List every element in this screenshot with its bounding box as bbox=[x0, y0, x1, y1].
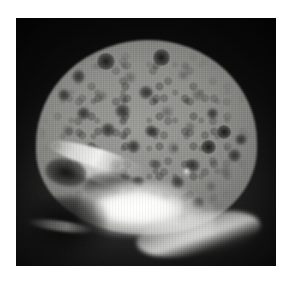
skull-radiograph-image bbox=[16, 18, 276, 266]
page-margin-left bbox=[0, 0, 16, 284]
figure-caption bbox=[16, 268, 276, 282]
scan-line-noise bbox=[16, 18, 276, 266]
page-margin-right bbox=[276, 0, 290, 284]
page-margin-top bbox=[0, 0, 290, 18]
figure-root bbox=[0, 0, 290, 284]
